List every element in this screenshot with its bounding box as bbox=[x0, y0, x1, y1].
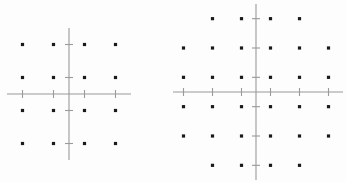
constellation-point bbox=[211, 46, 214, 49]
constellation-point bbox=[211, 105, 214, 108]
constellation-point bbox=[269, 134, 272, 137]
right-constellation-plot bbox=[173, 0, 346, 182]
constellation-point bbox=[182, 134, 185, 137]
constellation-point bbox=[211, 134, 214, 137]
constellation-point bbox=[83, 109, 86, 112]
constellation-point bbox=[21, 142, 24, 145]
constellation-point bbox=[298, 76, 301, 79]
constellation-point bbox=[21, 76, 24, 79]
constellation-point bbox=[240, 105, 243, 108]
left-plot-canvas bbox=[0, 0, 173, 182]
constellation-point bbox=[240, 76, 243, 79]
constellation-point bbox=[327, 134, 330, 137]
constellation-point bbox=[114, 142, 117, 145]
constellation-point bbox=[114, 43, 117, 46]
constellation-point bbox=[21, 43, 24, 46]
constellation-point bbox=[114, 76, 117, 79]
constellation-point bbox=[182, 46, 185, 49]
left-plot-axes bbox=[7, 28, 131, 160]
constellation-point bbox=[114, 109, 117, 112]
left-constellation-plot bbox=[0, 0, 173, 182]
constellation-point bbox=[327, 105, 330, 108]
constellation-figure bbox=[0, 0, 346, 182]
constellation-point bbox=[182, 105, 185, 108]
constellation-point bbox=[83, 142, 86, 145]
constellation-point bbox=[269, 105, 272, 108]
constellation-point bbox=[21, 109, 24, 112]
constellation-point bbox=[211, 164, 214, 167]
constellation-point bbox=[298, 164, 301, 167]
constellation-point bbox=[52, 109, 55, 112]
constellation-point bbox=[211, 17, 214, 20]
constellation-point bbox=[298, 105, 301, 108]
constellation-point bbox=[269, 17, 272, 20]
constellation-point bbox=[298, 46, 301, 49]
constellation-point bbox=[298, 17, 301, 20]
right-plot-axes bbox=[173, 4, 343, 180]
constellation-point bbox=[240, 134, 243, 137]
constellation-point bbox=[52, 43, 55, 46]
constellation-point bbox=[240, 164, 243, 167]
constellation-point bbox=[182, 76, 185, 79]
constellation-point bbox=[83, 76, 86, 79]
constellation-point bbox=[240, 46, 243, 49]
constellation-point bbox=[240, 17, 243, 20]
constellation-point bbox=[52, 76, 55, 79]
constellation-point bbox=[83, 43, 86, 46]
constellation-point bbox=[327, 76, 330, 79]
constellation-point bbox=[211, 76, 214, 79]
constellation-point bbox=[269, 46, 272, 49]
constellation-point bbox=[327, 46, 330, 49]
constellation-point bbox=[52, 142, 55, 145]
constellation-point bbox=[269, 76, 272, 79]
right-plot-canvas bbox=[173, 0, 346, 182]
constellation-point bbox=[298, 134, 301, 137]
constellation-point bbox=[269, 164, 272, 167]
